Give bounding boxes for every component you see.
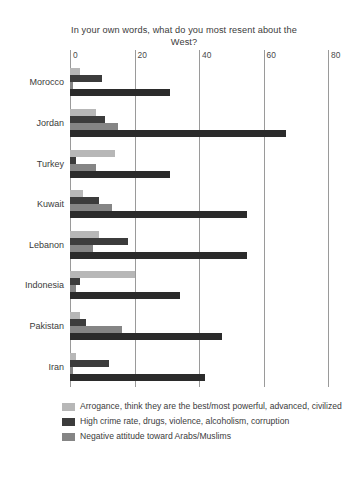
- legend-label: High crime rate, drugs, violence, alcoho…: [80, 416, 289, 427]
- bar: [70, 252, 247, 259]
- bar: [70, 326, 122, 333]
- country-group: Pakistan: [70, 306, 328, 347]
- country-group: Kuwait: [70, 184, 328, 225]
- bar: [70, 204, 112, 211]
- x-tick-label-40: 40: [199, 50, 211, 60]
- y-axis-label-iran: Iran: [48, 362, 64, 372]
- y-axis-label-kuwait: Kuwait: [37, 199, 64, 209]
- country-group: Indonesia: [70, 265, 328, 306]
- bar: [70, 278, 80, 285]
- bar: [70, 360, 109, 367]
- plot-area: MoroccoJordanTurkeyKuwaitLebanonIndonesi…: [70, 62, 328, 387]
- bar: [70, 333, 222, 340]
- bar: [70, 150, 115, 157]
- country-group: Turkey: [70, 143, 328, 184]
- bar: [70, 171, 170, 178]
- bar: [70, 123, 118, 130]
- y-axis-label-turkey: Turkey: [37, 159, 64, 169]
- legend-swatch-icon: [62, 403, 75, 411]
- x-tick-label-60: 60: [264, 50, 276, 60]
- y-axis-label-lebanon: Lebanon: [29, 240, 64, 250]
- legend-item: High crime rate, drugs, violence, alcoho…: [62, 416, 344, 427]
- bar: [70, 374, 205, 381]
- bar: [70, 231, 99, 238]
- chart-title: In your own words, what do you most rese…: [60, 24, 308, 48]
- bar: [70, 238, 128, 245]
- bar: [70, 353, 76, 360]
- bar: [70, 89, 170, 96]
- bar: [70, 190, 83, 197]
- y-axis-label-jordan: Jordan: [36, 118, 64, 128]
- country-group: Morocco: [70, 62, 328, 103]
- y-axis-label-morocco: Morocco: [29, 77, 64, 87]
- bar: [70, 109, 96, 116]
- bar: [70, 164, 96, 171]
- legend-swatch-icon: [62, 418, 75, 426]
- bar: [70, 211, 247, 218]
- chart-legend: Arrogance, think they are the best/most …: [62, 401, 344, 446]
- bar: [70, 285, 76, 292]
- country-group: Iran: [70, 346, 328, 387]
- bar: [70, 245, 93, 252]
- legend-label: Arrogance, think they are the best/most …: [80, 401, 342, 412]
- bar: [70, 157, 76, 164]
- bar: [70, 116, 105, 123]
- bar: [70, 319, 86, 326]
- bar: [70, 82, 73, 89]
- x-tick-label-0: 0: [70, 50, 78, 60]
- country-group: Lebanon: [70, 225, 328, 266]
- bar: [70, 197, 99, 204]
- bar: [70, 130, 286, 137]
- x-tick-label-20: 20: [135, 50, 147, 60]
- bar: [70, 68, 80, 75]
- bar: [70, 367, 73, 374]
- bar: [70, 312, 80, 319]
- legend-label: Negative attitude toward Arabs/Muslims: [80, 431, 231, 442]
- x-tick-label-80: 80: [328, 50, 340, 60]
- country-group: Jordan: [70, 103, 328, 144]
- bar: [70, 292, 180, 299]
- legend-item: Arrogance, think they are the best/most …: [62, 401, 344, 412]
- y-axis-label-pakistan: Pakistan: [29, 321, 64, 331]
- legend-swatch-icon: [62, 433, 75, 441]
- gridline-80: [328, 50, 329, 387]
- chart-container: In your own words, what do you most rese…: [0, 0, 348, 478]
- y-axis-label-indonesia: Indonesia: [25, 280, 64, 290]
- bar: [70, 271, 135, 278]
- legend-item: Negative attitude toward Arabs/Muslims: [62, 431, 344, 442]
- bar: [70, 75, 102, 82]
